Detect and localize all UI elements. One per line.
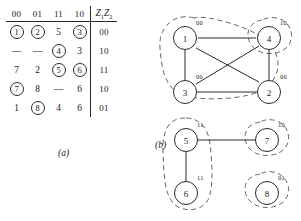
next-state-circled: 3 <box>73 25 87 39</box>
table-cell: — <box>27 41 48 60</box>
node-2-label: 2 <box>267 88 272 98</box>
next-state-plain: 6 <box>74 102 86 114</box>
column-header-11: 11 <box>48 6 69 22</box>
table-cell: 5 <box>48 22 69 42</box>
edge-4-3 <box>196 46 259 84</box>
table-cell: 6 <box>69 98 91 117</box>
table-cell: 4 <box>48 41 69 60</box>
table-cell: 2 <box>27 22 48 42</box>
table-cell: 8 <box>27 98 48 117</box>
node-6-label: 6 <box>184 189 189 199</box>
output-value: 10 <box>91 79 118 98</box>
node-5-output-label: 11 <box>197 121 204 128</box>
table-row: 1 2 5 3 00 <box>6 22 117 42</box>
output-header-z2: Z2 <box>104 8 113 18</box>
output-header-z1: Z1 <box>95 8 104 18</box>
node-5-label: 5 <box>184 136 189 146</box>
next-state-dash: — <box>32 45 44 57</box>
figure-root: 00 01 11 10 Z1Z2 1 2 5 <box>0 0 301 221</box>
table-cell: 1 <box>6 22 27 42</box>
next-state-circled: 4 <box>52 44 66 58</box>
node-8-label: 8 <box>265 189 270 199</box>
table-cell: 6 <box>69 79 91 98</box>
output-value: 00 <box>91 22 118 42</box>
next-state-circled: 6 <box>73 63 87 77</box>
next-state-plain: 4 <box>53 102 65 114</box>
table-cell: 7 <box>6 60 27 79</box>
column-header-00: 00 <box>6 6 27 22</box>
graph-panel: (b) 1 00 4 10 3 00 <box>152 0 301 221</box>
output-value: 11 <box>91 60 118 79</box>
table-cell: 2 <box>27 60 48 79</box>
node-1-output-label: 00 <box>196 19 203 26</box>
node-1-label: 1 <box>183 34 188 44</box>
merger-graph-bottom: 5 11 7 10 6 11 8 01 <box>152 112 301 221</box>
caption-a: (a) <box>58 148 69 158</box>
node-3-label: 3 <box>183 88 188 98</box>
table-cell: 4 <box>48 98 69 117</box>
table-cell: 8 <box>27 79 48 98</box>
node-3-output-label: 00 <box>196 73 203 80</box>
next-state-plain: 2 <box>32 64 44 76</box>
node-4-label: 4 <box>267 34 272 44</box>
next-state-circled: 8 <box>31 101 45 115</box>
output-value: 10 <box>91 41 118 60</box>
next-state-dash: — <box>53 83 65 95</box>
table-row: 7 8 — 6 10 <box>6 79 117 98</box>
table-row: 1 8 4 6 01 <box>6 98 117 117</box>
table-cell: 5 <box>48 60 69 79</box>
next-state-circled: 1 <box>10 25 24 39</box>
table-cell: 6 <box>69 60 91 79</box>
column-header-10: 10 <box>69 6 91 22</box>
next-state-plain: 6 <box>74 83 86 95</box>
column-header-01: 01 <box>27 6 48 22</box>
table-cell: — <box>48 79 69 98</box>
node-6-output-label: 11 <box>197 174 204 181</box>
table-row: — — 4 3 10 <box>6 41 117 60</box>
table-cell: 3 <box>69 22 91 42</box>
next-state-plain: 8 <box>32 83 44 95</box>
next-state-plain: 1 <box>11 102 23 114</box>
merger-graph-top: 1 00 4 10 3 00 2 00 <box>152 0 301 112</box>
caption-b: (b) <box>155 140 166 150</box>
node-7-output-label: 10 <box>278 121 285 128</box>
next-state-dash: — <box>11 45 23 57</box>
output-column-header: Z1Z2 <box>91 6 118 22</box>
next-state-circled: 7 <box>10 82 24 96</box>
output-value: 01 <box>91 98 118 117</box>
flow-table-panel: 00 01 11 10 Z1Z2 1 2 5 <box>0 0 152 221</box>
table-cell: 1 <box>6 98 27 117</box>
node-2-output-label: 00 <box>280 73 287 80</box>
next-state-circled: 5 <box>52 63 66 77</box>
table-cell: 7 <box>6 79 27 98</box>
node-7-label: 7 <box>265 136 270 146</box>
node-8-output-label: 01 <box>278 174 285 181</box>
table-header-row: 00 01 11 10 Z1Z2 <box>6 6 117 22</box>
table-cell: — <box>6 41 27 60</box>
table-row: 7 2 5 6 11 <box>6 60 117 79</box>
next-state-circled: 2 <box>31 25 45 39</box>
node-4-output-label: 10 <box>280 19 287 26</box>
flow-table: 00 01 11 10 Z1Z2 1 2 5 <box>6 6 117 117</box>
next-state-plain: 7 <box>11 64 23 76</box>
table-cell: 3 <box>69 41 91 60</box>
next-state-plain: 3 <box>74 45 86 57</box>
next-state-plain: 5 <box>53 26 65 38</box>
